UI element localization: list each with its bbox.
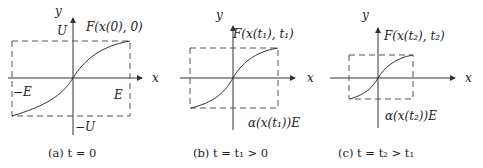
left-bound-label: −E xyxy=(13,85,32,99)
bound-label: α(x(t₂))E xyxy=(385,109,437,123)
function-label: F(x(0), 0) xyxy=(85,20,143,34)
y-axis-label: y xyxy=(54,4,62,18)
y-axis-label: y xyxy=(361,8,369,22)
panel-c: y x F(x(t₂), t₂) α(x(t₂))E (c) t = t₂ > … xyxy=(330,8,472,160)
caption-b: (b) t = t₁ > 0 xyxy=(193,146,268,160)
right-bound-label: E xyxy=(113,88,123,102)
bound-label: α(x(t₁))E xyxy=(248,116,300,130)
diagram-canvas: y x F(x(0), 0) U −U −E E (a) t = 0 y x F… xyxy=(0,0,483,168)
caption-a: (a) t = 0 xyxy=(48,146,96,160)
panel-a: y x F(x(0), 0) U −U −E E (a) t = 0 xyxy=(8,4,159,160)
function-label: F(x(t₁), t₁) xyxy=(232,27,294,41)
upper-bound-label: U xyxy=(57,24,68,38)
y-axis-label: y xyxy=(215,8,223,22)
function-label: F(x(t₂), t₂) xyxy=(383,29,445,43)
x-axis-label: x xyxy=(465,71,472,85)
caption-c: (c) t = t₂ > t₁ xyxy=(338,146,414,160)
panel-b: y x F(x(t₁), t₁) α(x(t₁))E (b) t = t₁ > … xyxy=(180,8,314,160)
lower-bound-label: −U xyxy=(75,120,96,134)
x-axis-label: x xyxy=(307,71,314,85)
x-axis-label: x xyxy=(152,71,159,85)
sigmoid-curve xyxy=(350,55,413,99)
bounding-box xyxy=(349,55,413,99)
